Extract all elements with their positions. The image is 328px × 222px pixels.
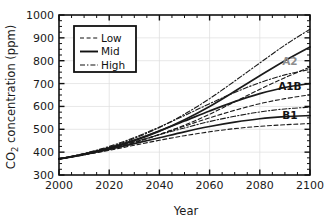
y-tick-label: 800 [33, 55, 54, 68]
svg-text:CO2 concentration (ppm): CO2 concentration (ppm) [4, 25, 20, 169]
curve-annotations: A2A1BB1 [278, 55, 301, 121]
curve-B1-High [59, 107, 310, 159]
y-axis-title-pre: CO [4, 152, 18, 169]
curve-A1B-Mid [59, 84, 310, 159]
y-axis-title-post: concentration (ppm) [4, 25, 18, 147]
y-tick-labels: 3004005006007008009001000 [26, 9, 54, 182]
x-tick-labels: 200020202040206020802100 [45, 179, 324, 192]
curve-label-B1: B1 [282, 109, 297, 121]
curve-label-A2: A2 [282, 55, 297, 67]
y-tick-label: 700 [33, 78, 54, 91]
legend-label-mid: Mid [101, 45, 120, 57]
curve-A2-Low [59, 67, 310, 159]
y-axis-title: CO2 concentration (ppm) [4, 25, 20, 169]
y-tick-label: 400 [33, 146, 54, 159]
x-axis-title: Year [173, 204, 199, 218]
x-tick-label: 2060 [196, 179, 224, 192]
y-tick-label: 1000 [26, 9, 54, 22]
y-tick-label: 300 [33, 169, 54, 182]
legend-label-low: Low [101, 32, 122, 44]
x-tick-label: 2100 [296, 179, 324, 192]
co2-concentration-chart: 200020202040206020802100 300400500600700… [0, 0, 328, 222]
x-tick-label: 2020 [95, 179, 123, 192]
curve-label-A1B: A1B [278, 80, 301, 92]
y-tick-label: 900 [33, 32, 54, 45]
legend-label-high: High [101, 59, 125, 71]
y-tick-label: 500 [33, 123, 54, 136]
curve-A1B-Low [59, 95, 310, 159]
x-tick-label: 2040 [145, 179, 173, 192]
legend-box: LowMidHigh [74, 26, 136, 72]
x-tick-label: 2080 [246, 179, 274, 192]
curve-B1-Low [59, 124, 310, 159]
y-tick-label: 600 [33, 100, 54, 113]
chart-canvas: 200020202040206020802100 300400500600700… [0, 0, 328, 222]
